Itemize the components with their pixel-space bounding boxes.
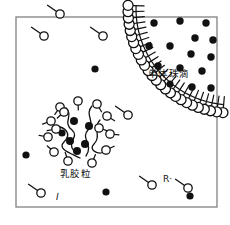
- micelle-surfactant-head: [60, 108, 68, 116]
- label-monomer-droplet: 单体珠滴: [148, 66, 189, 80]
- micelle-surfactant-head: [74, 97, 82, 105]
- micelle-surfactant-head: [44, 133, 52, 141]
- monomer-dot: [207, 53, 214, 60]
- surfactant-head: [184, 184, 192, 192]
- monomer-dot: [202, 19, 209, 26]
- surfactant-head: [99, 32, 107, 40]
- surfactant-head: [56, 10, 64, 18]
- monomer-dot: [207, 84, 214, 91]
- surfactant-head: [37, 189, 45, 197]
- free-surfactant: [48, 5, 65, 18]
- figure-frame: [16, 17, 217, 207]
- label-initiator: I: [56, 192, 59, 202]
- micelle-surfactant-head: [106, 130, 114, 138]
- micelle-surfactant-head: [52, 125, 60, 133]
- free-monomer-dot: [102, 188, 109, 195]
- monomer-dot: [187, 50, 194, 57]
- latex-monomer-dot: [81, 140, 89, 148]
- frame-rect: [16, 17, 217, 207]
- emulsion-polymerization-figure: · · · · · · · · · · · 单体珠滴 乳胶粒 I R·: [0, 0, 230, 225]
- diagram-canvas: [0, 0, 230, 225]
- surfactant-head: [40, 32, 48, 40]
- monomer-dot: [145, 42, 152, 49]
- latex-monomer-dot: [66, 137, 74, 145]
- free-monomer-dot: [91, 65, 98, 72]
- interface-surfactant-head: [123, 0, 133, 10]
- monomer-dot: [150, 19, 157, 26]
- monomer-dot: [191, 34, 198, 41]
- micelle-surfactant-head: [103, 112, 111, 120]
- latex-monomer-dot: [73, 147, 81, 155]
- surfactant-head: [148, 181, 156, 189]
- micelle-surfactant-head: [95, 124, 103, 132]
- micelle-surfactant-head: [64, 157, 72, 165]
- free-monomer-dot: [186, 192, 193, 199]
- interface-surfactant-tail: [223, 97, 224, 108]
- monomer-dot: [176, 17, 183, 24]
- micelle-surfactant-head: [93, 100, 101, 108]
- label-radical: R·: [163, 174, 172, 184]
- label-latex-particle: 乳胶粒: [60, 166, 91, 180]
- micelle-surfactant-head: [102, 146, 110, 154]
- monomer-dot: [188, 83, 195, 90]
- latex-monomer-dot: [85, 122, 93, 130]
- monomer-dot: [166, 42, 173, 49]
- latex-monomer-dot: [70, 117, 78, 125]
- micelle-surfactant-head: [47, 117, 55, 125]
- free-monomer-dot: [22, 151, 29, 158]
- monomer-dot: [209, 36, 216, 43]
- monomer-dot: [198, 67, 205, 74]
- surfactant-tail: [48, 5, 57, 11]
- surfactant-head: [124, 111, 132, 119]
- monomer-dot: [167, 81, 174, 88]
- micelle-surfactant-head: [50, 148, 58, 156]
